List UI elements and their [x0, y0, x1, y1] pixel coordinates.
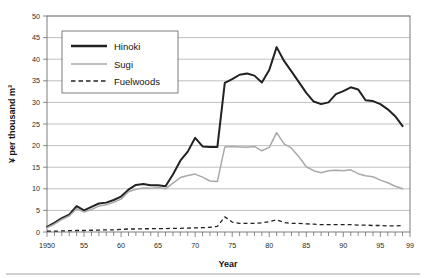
legend-label-sugi: Sugi: [114, 59, 133, 70]
x-tick-label-1970: 70: [191, 241, 199, 250]
y-tick-label-40: 40: [32, 55, 40, 64]
legend-label-fuelwoods: Fuelwoods: [114, 76, 160, 87]
y-tick-label-20: 20: [32, 141, 40, 150]
x-tick-label-1950: 1950: [39, 241, 55, 250]
y-tick-label-10: 10: [32, 184, 40, 193]
x-tick-label-1995: 95: [376, 241, 384, 250]
x-axis-title: Year: [218, 259, 238, 269]
legend-label-hinoki: Hinoki: [114, 41, 140, 52]
x-tick-label-1980: 80: [265, 241, 273, 250]
chart-legend: Hinoki Sugi Fuelwoods: [62, 31, 178, 93]
x-tick-label-1990: 90: [339, 241, 347, 250]
y-tick-label-45: 45: [32, 33, 40, 42]
line-chart: 05101520253035404550 1950556065707580859…: [0, 0, 426, 278]
x-tick-label-1960: 60: [117, 241, 125, 250]
y-tick-label-15: 15: [32, 163, 40, 172]
y-axis-title: ¥ per thousand m³: [7, 85, 17, 163]
y-tick-label-50: 50: [32, 12, 40, 21]
y-tick-label-35: 35: [32, 76, 40, 85]
x-tick-label-1985: 85: [302, 241, 310, 250]
y-tick-label-5: 5: [36, 206, 40, 215]
x-tick-label-1999: 99: [406, 241, 414, 250]
y-tick-label-0: 0: [36, 228, 40, 237]
x-tick-label-1965: 65: [154, 241, 162, 250]
x-tick-label-1975: 75: [228, 241, 236, 250]
y-tick-label-25: 25: [32, 120, 40, 129]
x-tick-label-1955: 55: [80, 241, 88, 250]
chart-figure: 05101520253035404550 1950556065707580859…: [0, 0, 426, 278]
y-tick-label-30: 30: [32, 98, 40, 107]
